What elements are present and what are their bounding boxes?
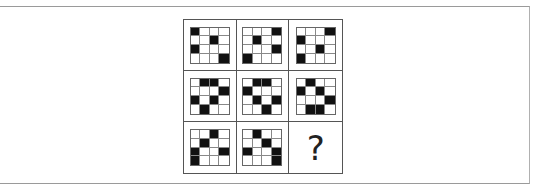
pattern-grid: [190, 27, 230, 64]
empty-square: [191, 79, 201, 88]
filled-square: [306, 105, 316, 114]
empty-square: [253, 156, 263, 165]
empty-square: [210, 105, 220, 114]
filled-square: [191, 45, 201, 54]
matrix-cell: [184, 122, 237, 173]
empty-square: [272, 130, 282, 139]
empty-square: [200, 87, 210, 96]
empty-square: [243, 139, 253, 148]
empty-square: [297, 45, 307, 54]
filled-square: [210, 96, 220, 105]
empty-square: [243, 105, 253, 114]
empty-square: [243, 156, 253, 165]
empty-square: [191, 54, 201, 63]
empty-square: [253, 54, 263, 63]
filled-square: [272, 148, 282, 157]
empty-square: [272, 79, 282, 88]
empty-square: [306, 36, 316, 45]
empty-square: [243, 45, 253, 54]
filled-square: [253, 96, 263, 105]
filled-square: [253, 36, 263, 45]
empty-square: [200, 148, 210, 157]
empty-square: [262, 148, 272, 157]
empty-square: [272, 54, 282, 63]
empty-square: [316, 36, 326, 45]
filled-square: [316, 45, 326, 54]
empty-square: [325, 36, 335, 45]
filled-square: [262, 139, 272, 148]
filled-square: [297, 36, 307, 45]
empty-square: [262, 87, 272, 96]
empty-square: [262, 28, 272, 37]
pattern-grid: [296, 27, 336, 64]
empty-square: [219, 36, 229, 45]
empty-square: [200, 156, 210, 165]
empty-square: [219, 130, 229, 139]
filled-square: [210, 130, 220, 139]
matrix-cell: [184, 71, 237, 122]
empty-square: [297, 105, 307, 114]
filled-square: [253, 130, 263, 139]
matrix-cell: [237, 20, 290, 71]
empty-square: [253, 45, 263, 54]
empty-square: [253, 28, 263, 37]
empty-square: [253, 148, 263, 157]
empty-square: [219, 156, 229, 165]
empty-square: [297, 28, 307, 37]
empty-square: [191, 139, 201, 148]
filled-square: [297, 54, 307, 63]
filled-square: [219, 148, 229, 157]
filled-square: [306, 79, 316, 88]
answer-cell[interactable]: ?: [289, 122, 342, 173]
filled-square: [219, 87, 229, 96]
empty-square: [316, 96, 326, 105]
matrix-cell: [237, 71, 290, 122]
empty-square: [219, 45, 229, 54]
empty-square: [297, 96, 307, 105]
empty-square: [219, 79, 229, 88]
filled-square: [297, 87, 307, 96]
filled-square: [325, 28, 335, 37]
empty-square: [191, 36, 201, 45]
empty-square: [325, 45, 335, 54]
filled-square: [316, 105, 326, 114]
filled-square: [200, 79, 210, 88]
pattern-grid: [190, 78, 230, 115]
filled-square: [243, 87, 253, 96]
filled-square: [191, 148, 201, 157]
empty-square: [325, 54, 335, 63]
empty-square: [272, 36, 282, 45]
empty-square: [316, 54, 326, 63]
empty-square: [200, 45, 210, 54]
matrix-cell: [289, 20, 342, 71]
filled-square: [272, 28, 282, 37]
empty-square: [272, 87, 282, 96]
empty-square: [325, 105, 335, 114]
empty-square: [210, 54, 220, 63]
empty-square: [200, 28, 210, 37]
empty-square: [262, 36, 272, 45]
empty-square: [200, 130, 210, 139]
empty-square: [191, 87, 201, 96]
filled-square: [200, 139, 210, 148]
empty-square: [243, 96, 253, 105]
empty-square: [262, 45, 272, 54]
empty-square: [210, 87, 220, 96]
empty-square: [243, 130, 253, 139]
empty-square: [200, 96, 210, 105]
empty-square: [210, 148, 220, 157]
filled-square: [191, 96, 201, 105]
empty-square: [306, 28, 316, 37]
empty-square: [243, 79, 253, 88]
matrix-cell: [184, 20, 237, 71]
filled-square: [243, 54, 253, 63]
empty-square: [219, 105, 229, 114]
empty-square: [325, 87, 335, 96]
empty-square: [316, 28, 326, 37]
empty-square: [262, 96, 272, 105]
empty-square: [253, 105, 263, 114]
empty-square: [272, 139, 282, 148]
filled-square: [316, 87, 326, 96]
matrix-cell: [237, 122, 290, 173]
filled-square: [272, 156, 282, 165]
